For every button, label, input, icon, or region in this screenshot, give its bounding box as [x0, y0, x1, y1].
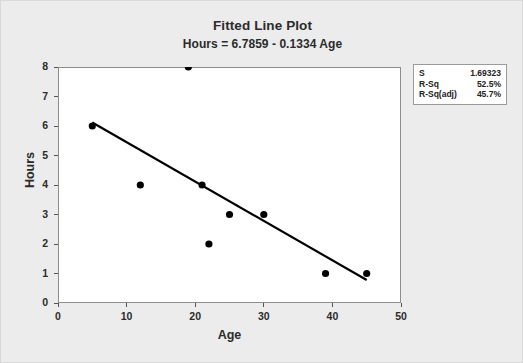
statistics-row: R-Sq(adj)45.7% [419, 89, 501, 100]
y-axis-title: Hours [23, 135, 37, 205]
statistic-value: 1.69323 [470, 68, 501, 79]
y-tick-mark [54, 96, 58, 97]
y-tick-label: 2 [32, 237, 48, 249]
statistics-row: S1.69323 [419, 68, 501, 79]
regression-line [92, 122, 366, 280]
data-point [363, 270, 370, 277]
statistic-label: R-Sq [419, 79, 439, 90]
x-tick-mark [263, 303, 264, 307]
y-tick-mark [54, 155, 58, 156]
y-tick-label: 8 [32, 60, 48, 72]
x-tick-mark [401, 303, 402, 307]
chart-title-block: Fitted Line Plot Hours = 6.7859 - 0.1334… [1, 17, 523, 52]
y-tick-mark [54, 273, 58, 274]
x-tick-label: 50 [388, 310, 414, 322]
x-axis-title: Age [58, 328, 401, 342]
chart-subtitle-equation: Hours = 6.7859 - 0.1334 Age [1, 36, 523, 52]
chart-title: Fitted Line Plot [1, 17, 523, 34]
y-tick-mark [54, 67, 58, 68]
y-tick-label: 7 [32, 90, 48, 102]
y-tick-label: 6 [32, 119, 48, 131]
data-point [89, 122, 96, 129]
y-tick-label: 1 [32, 267, 48, 279]
statistics-row: R-Sq52.5% [419, 79, 501, 90]
y-tick-label: 3 [32, 208, 48, 220]
data-point [226, 211, 233, 218]
y-tick-label: 0 [32, 296, 48, 308]
x-tick-label: 40 [319, 310, 345, 322]
fitted-line-plot-figure: Fitted Line Plot Hours = 6.7859 - 0.1334… [0, 0, 523, 363]
data-point [322, 270, 329, 277]
data-points-group [89, 67, 371, 277]
y-tick-mark [54, 214, 58, 215]
x-tick-label: 20 [182, 310, 208, 322]
y-tick-mark [54, 185, 58, 186]
statistic-value: 52.5% [477, 79, 501, 90]
data-point [137, 181, 144, 188]
statistic-label: R-Sq(adj) [419, 89, 457, 100]
data-point [205, 240, 212, 247]
data-point [185, 67, 192, 71]
x-tick-mark [58, 303, 59, 307]
statistic-value: 45.7% [477, 89, 501, 100]
x-tick-mark [195, 303, 196, 307]
data-point [198, 181, 205, 188]
statistic-label: S [419, 68, 425, 79]
x-tick-mark [332, 303, 333, 307]
data-point [260, 211, 267, 218]
fit-line [92, 122, 366, 280]
statistics-box: S1.69323R-Sq52.5%R-Sq(adj)45.7% [413, 64, 507, 105]
x-tick-mark [126, 303, 127, 307]
x-tick-label: 10 [114, 310, 140, 322]
x-tick-label: 30 [251, 310, 277, 322]
x-tick-label: 0 [45, 310, 71, 322]
y-tick-mark [54, 244, 58, 245]
y-tick-mark [54, 126, 58, 127]
plot-canvas [58, 67, 401, 303]
